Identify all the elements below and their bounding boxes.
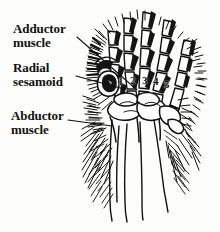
label-radial-line1: Radial <box>13 60 49 75</box>
digit-number-2: 2 <box>130 74 136 86</box>
label-radial-line2: sesamoid <box>13 75 63 89</box>
digit-number-1: 1 <box>118 75 124 87</box>
digit-number-3: 3 <box>142 74 148 86</box>
label-abductor-muscle: Abductor muscle <box>11 109 64 137</box>
forearm-fur-right <box>164 130 189 194</box>
label-radial-sesamoid: Radial sesamoid <box>13 61 63 89</box>
anatomical-figure: Adductor muscle Radial sesamoid Abductor… <box>0 0 220 232</box>
radial-sesamoid-bone <box>97 71 119 96</box>
digit-5-shading <box>183 39 196 88</box>
digit-number-5: 5 <box>164 78 170 90</box>
label-adductor-line1: Adductor <box>13 21 66 36</box>
label-abductor-line1: Abductor <box>11 108 64 123</box>
digit-number-4: 4 <box>153 75 159 87</box>
label-adductor-muscle: Adductor muscle <box>13 22 66 50</box>
label-abductor-line2: muscle <box>11 123 64 137</box>
label-adductor-line2: muscle <box>13 36 66 50</box>
